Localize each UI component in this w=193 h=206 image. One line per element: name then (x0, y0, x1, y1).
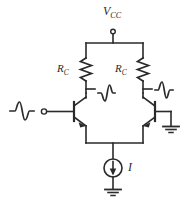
rc-right-subscript: C (122, 68, 127, 77)
circuit-diagram: VCC RC RC I (0, 0, 193, 206)
transistor-right-collector-lead (143, 97, 155, 106)
rc-left-symbol: R (57, 62, 64, 74)
schematic-canvas (0, 0, 193, 206)
current-symbol: I (128, 160, 132, 174)
transistor-left-collector-lead (74, 97, 86, 106)
rc-right-symbol: R (115, 62, 122, 74)
vcc-subscript: CC (110, 11, 121, 20)
waveform-output-right (155, 82, 173, 98)
vcc-terminal-node (111, 29, 116, 34)
input-terminal-node (41, 109, 46, 114)
vcc-label: VCC (103, 4, 121, 20)
rc-left-subscript: C (64, 68, 69, 77)
waveform-output-left (98, 85, 115, 101)
resistor-left-zigzag (81, 58, 92, 81)
resistor-left-label: RC (57, 62, 69, 77)
waveform-input-signal (10, 102, 34, 120)
current-source-label: I (128, 160, 132, 175)
resistor-right-label: RC (115, 62, 127, 77)
resistor-right-zigzag (138, 58, 149, 81)
